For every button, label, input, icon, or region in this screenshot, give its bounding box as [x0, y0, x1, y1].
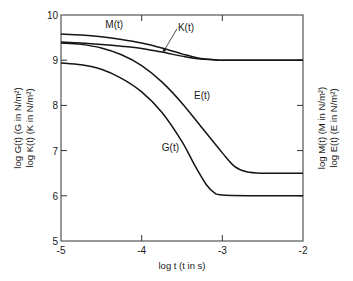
curve-label-mt: M(t)	[105, 19, 123, 30]
y-axis-label-right-1: log M(t) (M in N/m²)	[316, 87, 327, 169]
series-line-gt	[61, 63, 303, 196]
curves-group	[61, 34, 303, 196]
y-tick-label: 10	[47, 10, 59, 21]
curve-label-kt: K(t)	[178, 22, 194, 33]
curve-label-et: E(t)	[194, 90, 210, 101]
y-axis-label-left-1: log G(t) (G in N/m²)	[12, 87, 23, 168]
y-axis-label-left-2: log K(t) (K in N/m²)	[24, 88, 35, 167]
y-tick-label: 7	[52, 146, 58, 157]
y-tick-label: 5	[52, 236, 58, 247]
y-tick-label: 9	[52, 55, 58, 66]
x-axis-label: log t (t in s)	[159, 260, 206, 271]
x-tick-label: -4	[137, 245, 146, 256]
series-line-kt	[61, 42, 303, 60]
y-axis-label-right-2: log E(t) (E in N/m²)	[328, 88, 339, 167]
curve-label-gt: G(t)	[162, 142, 179, 153]
leader-line-kt	[164, 29, 177, 50]
ticks-group	[61, 15, 303, 241]
y-tick-label: 8	[52, 100, 58, 111]
x-tick-label: -3	[218, 245, 227, 256]
chart: -5-4-3-25678910 M(t)K(t)E(t)G(t) log t (…	[0, 0, 353, 281]
leader-dot-kt	[163, 49, 166, 52]
y-tick-label: 6	[52, 191, 58, 202]
plot-frame	[61, 15, 303, 241]
series-line-et	[61, 43, 303, 173]
x-tick-label: -2	[299, 245, 308, 256]
